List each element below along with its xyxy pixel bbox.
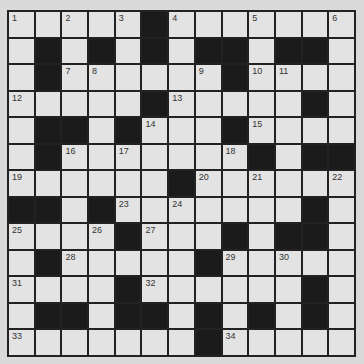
answer-cell[interactable] — [276, 171, 301, 196]
answer-cell[interactable] — [276, 12, 301, 37]
answer-cell[interactable] — [249, 39, 274, 64]
answer-cell[interactable] — [36, 330, 61, 355]
answer-cell[interactable] — [116, 92, 141, 117]
answer-cell[interactable] — [36, 277, 61, 302]
answer-cell[interactable]: 19 — [9, 171, 34, 196]
answer-cell[interactable] — [223, 304, 248, 329]
answer-cell[interactable] — [142, 65, 167, 90]
answer-cell[interactable]: 10 — [249, 65, 274, 90]
answer-cell[interactable] — [169, 251, 194, 276]
answer-cell[interactable] — [276, 198, 301, 223]
answer-cell[interactable] — [169, 39, 194, 64]
answer-cell[interactable] — [329, 304, 354, 329]
answer-cell[interactable] — [276, 145, 301, 170]
answer-cell[interactable] — [196, 12, 221, 37]
answer-cell[interactable] — [116, 171, 141, 196]
answer-cell[interactable]: 31 — [9, 277, 34, 302]
answer-cell[interactable] — [89, 12, 114, 37]
answer-cell[interactable] — [142, 198, 167, 223]
answer-cell[interactable]: 5 — [249, 12, 274, 37]
answer-cell[interactable] — [89, 171, 114, 196]
answer-cell[interactable] — [169, 65, 194, 90]
answer-cell[interactable]: 28 — [62, 251, 87, 276]
answer-cell[interactable] — [249, 251, 274, 276]
answer-cell[interactable] — [196, 277, 221, 302]
answer-cell[interactable]: 6 — [329, 12, 354, 37]
answer-cell[interactable] — [196, 224, 221, 249]
answer-cell[interactable] — [89, 304, 114, 329]
answer-cell[interactable] — [329, 224, 354, 249]
answer-cell[interactable]: 15 — [249, 118, 274, 143]
answer-cell[interactable]: 25 — [9, 224, 34, 249]
answer-cell[interactable] — [142, 330, 167, 355]
answer-cell[interactable] — [169, 224, 194, 249]
answer-cell[interactable]: 14 — [142, 118, 167, 143]
answer-cell[interactable] — [116, 65, 141, 90]
answer-cell[interactable]: 18 — [223, 145, 248, 170]
answer-cell[interactable] — [303, 118, 328, 143]
answer-cell[interactable] — [169, 277, 194, 302]
answer-cell[interactable] — [249, 198, 274, 223]
answer-cell[interactable] — [116, 330, 141, 355]
answer-cell[interactable] — [36, 92, 61, 117]
answer-cell[interactable] — [9, 39, 34, 64]
answer-cell[interactable] — [116, 251, 141, 276]
answer-cell[interactable]: 17 — [116, 145, 141, 170]
answer-cell[interactable] — [249, 277, 274, 302]
answer-cell[interactable]: 34 — [223, 330, 248, 355]
answer-cell[interactable] — [9, 65, 34, 90]
answer-cell[interactable] — [9, 145, 34, 170]
answer-cell[interactable] — [89, 277, 114, 302]
answer-cell[interactable] — [249, 330, 274, 355]
answer-cell[interactable] — [62, 330, 87, 355]
answer-cell[interactable]: 24 — [169, 198, 194, 223]
answer-cell[interactable]: 2 — [62, 12, 87, 37]
answer-cell[interactable] — [89, 330, 114, 355]
answer-cell[interactable] — [169, 330, 194, 355]
answer-cell[interactable] — [9, 304, 34, 329]
answer-cell[interactable] — [276, 92, 301, 117]
answer-cell[interactable] — [9, 118, 34, 143]
answer-cell[interactable] — [89, 145, 114, 170]
answer-cell[interactable] — [329, 251, 354, 276]
answer-cell[interactable]: 7 — [62, 65, 87, 90]
answer-cell[interactable] — [89, 92, 114, 117]
answer-cell[interactable] — [223, 277, 248, 302]
answer-cell[interactable]: 8 — [89, 65, 114, 90]
answer-cell[interactable]: 4 — [169, 12, 194, 37]
answer-cell[interactable] — [249, 224, 274, 249]
answer-cell[interactable] — [142, 171, 167, 196]
answer-cell[interactable] — [276, 304, 301, 329]
answer-cell[interactable] — [196, 198, 221, 223]
answer-cell[interactable] — [329, 198, 354, 223]
answer-cell[interactable] — [36, 171, 61, 196]
answer-cell[interactable] — [116, 39, 141, 64]
answer-cell[interactable] — [303, 12, 328, 37]
answer-cell[interactable] — [36, 224, 61, 249]
answer-cell[interactable] — [142, 145, 167, 170]
answer-cell[interactable]: 29 — [223, 251, 248, 276]
answer-cell[interactable]: 13 — [169, 92, 194, 117]
answer-cell[interactable] — [62, 198, 87, 223]
answer-cell[interactable] — [303, 330, 328, 355]
answer-cell[interactable] — [89, 118, 114, 143]
answer-cell[interactable]: 1 — [9, 12, 34, 37]
answer-cell[interactable]: 27 — [142, 224, 167, 249]
answer-cell[interactable] — [36, 12, 61, 37]
answer-cell[interactable] — [223, 92, 248, 117]
answer-cell[interactable]: 11 — [276, 65, 301, 90]
answer-cell[interactable]: 30 — [276, 251, 301, 276]
answer-cell[interactable] — [303, 171, 328, 196]
answer-cell[interactable] — [223, 198, 248, 223]
answer-cell[interactable] — [329, 39, 354, 64]
answer-cell[interactable] — [89, 251, 114, 276]
answer-cell[interactable] — [276, 277, 301, 302]
answer-cell[interactable] — [62, 39, 87, 64]
answer-cell[interactable]: 23 — [116, 198, 141, 223]
answer-cell[interactable]: 32 — [142, 277, 167, 302]
answer-cell[interactable] — [196, 145, 221, 170]
answer-cell[interactable] — [303, 65, 328, 90]
answer-cell[interactable] — [329, 92, 354, 117]
answer-cell[interactable]: 12 — [9, 92, 34, 117]
answer-cell[interactable]: 21 — [249, 171, 274, 196]
